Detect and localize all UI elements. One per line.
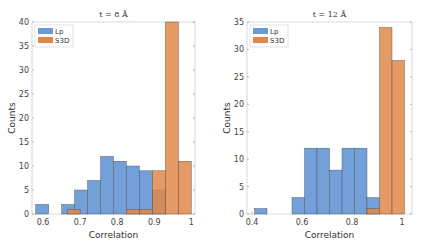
legend-label: Lp <box>270 28 279 36</box>
x-tick-label: 0.6 <box>296 218 309 227</box>
y-tick-label: 0 <box>24 210 29 219</box>
x-tick-label: 0.9 <box>148 218 161 227</box>
y-tick-label: 20 <box>234 100 244 109</box>
legend-label: Lp <box>55 28 64 36</box>
y-axis-label: Counts <box>7 102 17 134</box>
y-tick-label: 0 <box>239 210 244 219</box>
y-tick-label: 10 <box>234 155 244 164</box>
y-tick-label: 20 <box>19 114 29 123</box>
y-tick-label: 5 <box>24 186 29 195</box>
legend-swatch-lp <box>253 28 268 34</box>
y-tick-label: 40 <box>19 18 29 27</box>
bar-s3d <box>152 171 165 214</box>
y-tick-label: 25 <box>234 73 244 82</box>
y-tick-label: 35 <box>234 18 244 27</box>
y-tick-label: 30 <box>234 45 244 54</box>
bar-s3d <box>126 209 139 214</box>
bar-lp <box>330 170 343 214</box>
bar-s3d <box>67 209 80 214</box>
plot-title: t = 8 Å <box>99 10 128 19</box>
legend-swatch-lp <box>38 28 53 34</box>
bar-s3d <box>178 161 191 214</box>
bar-lp <box>114 161 127 214</box>
legend-swatch-s3d <box>253 37 268 43</box>
bar-lp <box>36 204 49 214</box>
legend-label: S3D <box>270 37 284 45</box>
y-tick-label: 5 <box>239 183 244 192</box>
bar-lp <box>88 180 101 214</box>
legend-label: S3D <box>55 37 69 45</box>
bar-lp <box>342 148 355 214</box>
y-tick-label: 15 <box>234 128 244 137</box>
legend: LpS3D <box>35 25 73 47</box>
bar-lp <box>139 171 152 214</box>
y-tick-label: 35 <box>19 42 29 51</box>
y-tick-label: 30 <box>19 66 29 75</box>
x-tick-label: 0.8 <box>346 218 359 227</box>
y-tick-label: 10 <box>19 162 29 171</box>
bar-s3d <box>139 209 152 214</box>
bar-s3d <box>380 27 393 214</box>
bar-lp <box>292 198 305 214</box>
bar-s3d <box>392 60 405 214</box>
x-tick-label: 0.6 <box>37 218 50 227</box>
bar-lp <box>255 209 268 214</box>
legend: LpS3D <box>250 25 288 47</box>
plot-title: t = 12 Å <box>313 10 347 19</box>
bar-lp <box>101 156 114 214</box>
y-axis-label: Counts <box>222 102 232 134</box>
x-tick-label: 0.4 <box>246 218 259 227</box>
figure: 05101520253035400.60.70.80.91Correlation… <box>0 0 425 243</box>
histogram-t12: 051015202530350.40.60.81CorrelationCount… <box>222 10 412 240</box>
histogram-t8: 05101520253035400.60.70.80.91Correlation… <box>7 10 195 240</box>
bar-s3d <box>367 209 380 214</box>
y-tick-label: 25 <box>19 90 29 99</box>
bar-lp <box>126 166 139 214</box>
x-tick-label: 1 <box>189 218 194 227</box>
bar-lp <box>305 148 318 214</box>
bar-s3d <box>165 22 178 214</box>
bar-lp <box>355 148 368 214</box>
x-tick-label: 0.8 <box>111 218 124 227</box>
x-axis-label: Correlation <box>305 230 355 240</box>
legend-swatch-s3d <box>38 37 53 43</box>
bar-lp <box>317 148 330 214</box>
y-tick-label: 15 <box>19 138 29 147</box>
x-axis-label: Correlation <box>89 230 139 240</box>
x-tick-label: 0.7 <box>74 218 87 227</box>
x-tick-label: 1 <box>399 218 404 227</box>
